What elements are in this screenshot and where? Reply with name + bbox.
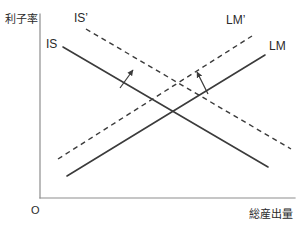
is-curve-label: IS [46, 38, 57, 50]
is-curve [63, 47, 268, 167]
y-axis-label: 利子率 [5, 14, 38, 25]
lm-shifted-curve-label: LM’ [226, 14, 245, 26]
axes-group [40, 14, 295, 198]
is-shifted-curve [86, 29, 291, 149]
chart-canvas [0, 0, 301, 228]
is-shift-arrow [120, 70, 133, 88]
is-shifted-curve-label: IS’ [74, 12, 88, 24]
lm-shift-arrow [197, 72, 208, 94]
x-axis-label: 総産出量 [249, 209, 293, 220]
lm-curve-label: LM [269, 40, 286, 52]
is-lm-figure: 利子率 総産出量 O IS IS’ LM LM’ [0, 0, 301, 228]
lm-curve [67, 55, 265, 176]
origin-label: O [31, 205, 40, 216]
